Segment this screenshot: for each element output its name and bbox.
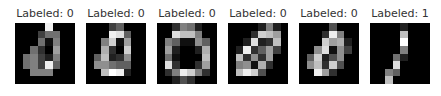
pixel xyxy=(38,46,46,54)
pixel xyxy=(385,31,393,39)
pixel xyxy=(307,69,315,77)
pixel xyxy=(337,61,345,69)
pixel xyxy=(30,38,38,46)
pixel xyxy=(38,31,46,39)
pixel xyxy=(45,76,53,84)
pixel xyxy=(415,54,423,62)
pixel xyxy=(202,61,210,69)
pixel xyxy=(116,61,124,69)
pixel xyxy=(210,54,218,62)
pixel xyxy=(415,61,423,69)
pixel xyxy=(266,23,274,31)
pixel xyxy=(329,31,337,39)
pixel xyxy=(101,61,109,69)
pixel xyxy=(68,69,76,77)
pixel xyxy=(116,76,124,84)
pixel xyxy=(236,76,244,84)
pixel xyxy=(38,38,46,46)
pixel xyxy=(266,61,274,69)
pixel xyxy=(314,23,322,31)
digit-panel: Labeled: 1 xyxy=(370,0,430,96)
pixel xyxy=(165,69,173,77)
pixel xyxy=(210,23,218,31)
pixel xyxy=(423,38,431,46)
pixel xyxy=(329,69,337,77)
pixel xyxy=(266,54,274,62)
pixel xyxy=(258,31,266,39)
pixel xyxy=(281,54,289,62)
pixel xyxy=(258,76,266,84)
pixel xyxy=(38,61,46,69)
pixel xyxy=(258,38,266,46)
pixel xyxy=(68,54,76,62)
pixel xyxy=(273,76,281,84)
pixel xyxy=(180,38,188,46)
pixel xyxy=(370,69,378,77)
pixel xyxy=(423,46,431,54)
pixel xyxy=(86,46,94,54)
pixel xyxy=(124,23,132,31)
pixel xyxy=(187,76,195,84)
pixel xyxy=(370,54,378,62)
pixel xyxy=(236,46,244,54)
pixel xyxy=(60,76,68,84)
pixel xyxy=(352,31,360,39)
pixel xyxy=(344,23,352,31)
pixel xyxy=(228,69,236,77)
pixel xyxy=(68,76,76,84)
pixel xyxy=(15,76,23,84)
pixel xyxy=(187,31,195,39)
pixel xyxy=(210,69,218,77)
pixel xyxy=(378,54,386,62)
pixel xyxy=(124,54,132,62)
pixel xyxy=(408,54,416,62)
pixel xyxy=(307,54,315,62)
pixel xyxy=(408,23,416,31)
pixel xyxy=(299,61,307,69)
pixel xyxy=(15,31,23,39)
pixel xyxy=(187,69,195,77)
pixel xyxy=(258,54,266,62)
pixel xyxy=(400,38,408,46)
pixel xyxy=(180,46,188,54)
pixel xyxy=(352,46,360,54)
pixel xyxy=(195,76,203,84)
pixel xyxy=(15,46,23,54)
pixel xyxy=(15,38,23,46)
pixel xyxy=(101,76,109,84)
pixel xyxy=(101,54,109,62)
pixel xyxy=(195,61,203,69)
pixel xyxy=(109,61,117,69)
pixel xyxy=(172,54,180,62)
pixel xyxy=(299,54,307,62)
pixel xyxy=(322,76,330,84)
pixel xyxy=(68,38,76,46)
pixel xyxy=(266,69,274,77)
pixel xyxy=(131,76,139,84)
pixel xyxy=(15,61,23,69)
pixel xyxy=(116,23,124,31)
pixel xyxy=(101,31,109,39)
pixel xyxy=(139,54,147,62)
pixel xyxy=(60,31,68,39)
pixel xyxy=(68,46,76,54)
pixel xyxy=(23,69,31,77)
pixel xyxy=(180,76,188,84)
pixel xyxy=(195,69,203,77)
pixel xyxy=(322,61,330,69)
pixel xyxy=(101,23,109,31)
pixel xyxy=(322,69,330,77)
pixel xyxy=(378,61,386,69)
pixel xyxy=(299,31,307,39)
pixel xyxy=(139,31,147,39)
pixel xyxy=(139,69,147,77)
pixel xyxy=(86,31,94,39)
pixel xyxy=(23,38,31,46)
pixel xyxy=(45,38,53,46)
pixel xyxy=(344,54,352,62)
pixel xyxy=(322,31,330,39)
pixel xyxy=(329,76,337,84)
pixel xyxy=(329,54,337,62)
pixel xyxy=(172,38,180,46)
pixel xyxy=(195,54,203,62)
